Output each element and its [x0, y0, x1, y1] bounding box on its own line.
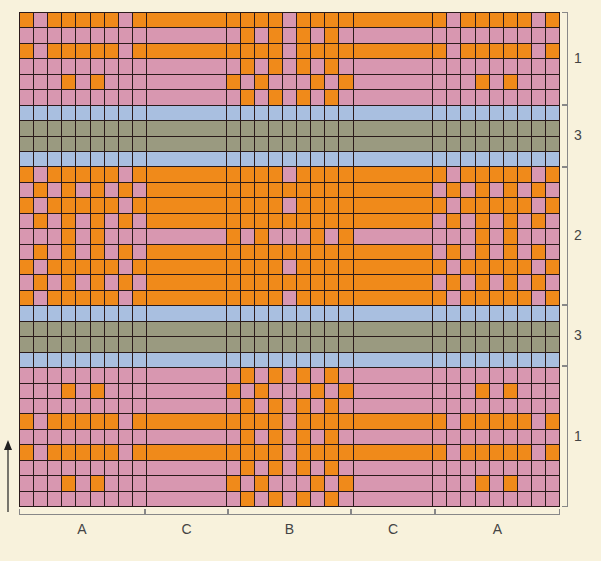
stripe-cell: [147, 445, 227, 459]
row-bracket: [562, 366, 568, 507]
grid-cell: [532, 322, 546, 336]
grid-cell: [339, 414, 353, 428]
grid-cell: [325, 137, 339, 151]
grid-cell: [518, 121, 532, 135]
stripe-cell: [354, 75, 434, 89]
grid-cell: [518, 44, 532, 58]
grid-cell: [34, 183, 48, 197]
grid-cell: [62, 337, 76, 351]
stripe-cell: [147, 306, 227, 320]
grid-cell: [433, 214, 447, 228]
grid-cell: [91, 59, 105, 73]
grid-cell: [20, 152, 34, 166]
grid-cell: [433, 121, 447, 135]
grid-cell: [34, 121, 48, 135]
grid-cell: [48, 445, 62, 459]
stripe-cell: [354, 399, 434, 413]
grid-cell: [133, 245, 147, 259]
stripe-cell: [147, 476, 227, 490]
grid-cell: [91, 414, 105, 428]
grid-cell: [133, 90, 147, 104]
grid-cell: [297, 75, 311, 89]
column-section-label: A: [435, 521, 560, 537]
grid-cell: [433, 414, 447, 428]
grid-cell: [311, 28, 325, 42]
grid-cell: [546, 322, 559, 336]
weft-row: [20, 368, 559, 383]
grid-cell: [227, 384, 241, 398]
grid-cell: [476, 167, 490, 181]
grid-cell: [76, 75, 90, 89]
grid-cell: [62, 106, 76, 120]
weft-row: [20, 214, 559, 229]
grid-cell: [133, 59, 147, 73]
grid-cell: [76, 337, 90, 351]
grid-cell: [283, 399, 297, 413]
grid-cell: [105, 167, 119, 181]
grid-cell: [105, 90, 119, 104]
grid-cell: [283, 183, 297, 197]
grid-cell: [283, 167, 297, 181]
grid-cell: [297, 492, 311, 506]
grid-cell: [325, 183, 339, 197]
grid-cell: [504, 44, 518, 58]
grid-cell: [311, 59, 325, 73]
grid-cell: [48, 106, 62, 120]
grid-cell: [48, 229, 62, 243]
grid-cell: [461, 28, 475, 42]
grid-cell: [476, 44, 490, 58]
grid-cell: [227, 275, 241, 289]
grid-cell: [447, 337, 461, 351]
grid-cell: [227, 353, 241, 367]
grid-cell: [48, 492, 62, 506]
grid-cell: [476, 461, 490, 475]
grid-cell: [105, 214, 119, 228]
grid-cell: [532, 414, 546, 428]
grid-cell: [339, 229, 353, 243]
grid-cell: [532, 59, 546, 73]
grid-cell: [476, 229, 490, 243]
grid-cell: [532, 492, 546, 506]
grid-cell: [76, 214, 90, 228]
grid-cell: [119, 106, 133, 120]
grid-cell: [227, 229, 241, 243]
grid-cell: [269, 291, 283, 305]
grid-cell: [241, 368, 255, 382]
grid-cell: [504, 337, 518, 351]
stripe-cell: [147, 337, 227, 351]
grid-cell: [255, 275, 269, 289]
grid-cell: [490, 368, 504, 382]
grid-cell: [447, 183, 461, 197]
grid-cell: [119, 445, 133, 459]
grid-cell: [241, 322, 255, 336]
grid-cell: [91, 399, 105, 413]
grid-cell: [532, 198, 546, 212]
grid-cell: [76, 414, 90, 428]
grid-cell: [297, 322, 311, 336]
grid-cell: [227, 399, 241, 413]
grid-cell: [91, 106, 105, 120]
grid-cell: [119, 152, 133, 166]
grid-cell: [297, 461, 311, 475]
grid-cell: [339, 214, 353, 228]
grid-cell: [297, 152, 311, 166]
grid-cell: [269, 121, 283, 135]
grid-cell: [532, 461, 546, 475]
grid-cell: [504, 90, 518, 104]
grid-cell: [297, 44, 311, 58]
grid-cell: [339, 183, 353, 197]
grid-cell: [461, 492, 475, 506]
grid-cell: [490, 13, 504, 27]
grid-cell: [447, 90, 461, 104]
grid-cell: [532, 384, 546, 398]
grid-cell: [433, 167, 447, 181]
grid-cell: [532, 260, 546, 274]
grid-cell: [490, 214, 504, 228]
grid-cell: [48, 214, 62, 228]
column-bracket: [228, 509, 351, 515]
grid-cell: [476, 476, 490, 490]
grid-cell: [255, 492, 269, 506]
grid-cell: [105, 399, 119, 413]
grid-cell: [34, 245, 48, 259]
grid-cell: [518, 198, 532, 212]
